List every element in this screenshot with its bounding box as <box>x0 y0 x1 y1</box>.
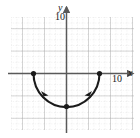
x-axis-tick-label-10: 10 <box>112 74 122 84</box>
right-endpoint-dot <box>97 71 102 76</box>
graph-figure: y x 10 10 <box>0 0 140 138</box>
y-axis-tick-label-10: 10 <box>55 12 65 22</box>
left-endpoint-dot <box>31 71 36 76</box>
x-axis-label: x <box>128 68 132 78</box>
vertex-minimum-dot <box>64 104 69 109</box>
plot-canvas <box>0 0 140 138</box>
